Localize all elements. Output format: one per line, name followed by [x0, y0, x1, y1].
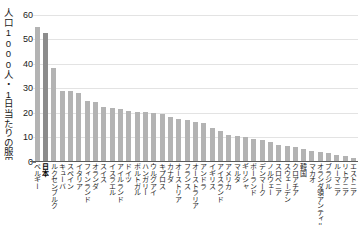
bar-slot: [266, 10, 274, 162]
x-label-slot: ドイツ: [125, 163, 133, 226]
x-tick-label: リトアニア: [342, 163, 349, 225]
x-label-slot: スイス: [100, 163, 108, 226]
bar-slot: [175, 10, 183, 162]
bar: [168, 117, 173, 162]
y-tick-label: 20: [13, 108, 33, 118]
bar: [285, 146, 290, 162]
x-tick-label: イタリア: [75, 163, 82, 225]
bar-slot: [191, 10, 199, 162]
x-label-slot: マカオ: [308, 163, 316, 226]
x-label-slot: イタリア: [75, 163, 83, 226]
x-label-slot: エストニア: [349, 163, 357, 226]
x-label-slot: スロベニア: [275, 163, 283, 226]
bar: [268, 142, 273, 162]
x-label-slot: イスラエル: [108, 163, 116, 226]
x-tick-label: ポルトガル: [133, 163, 140, 225]
x-label-slot: 日本: [41, 163, 49, 226]
bar: [193, 122, 198, 162]
bar-slot: [216, 10, 224, 162]
bar-slot: [166, 10, 174, 162]
x-tick-label: 韓国: [300, 163, 307, 225]
x-label-slot: オーストラリア: [191, 163, 199, 226]
x-label-slot: キプロス: [158, 163, 166, 226]
x-tick-label: アンドラ: [200, 163, 207, 225]
y-tick-label: 50: [13, 34, 33, 44]
bar: [135, 112, 140, 162]
x-label-slot: ルーマニア: [333, 163, 341, 226]
x-label-slot: オーストリア: [175, 163, 183, 226]
x-tick-label: イスラエル: [108, 163, 115, 225]
x-label-slot: スペイン: [66, 163, 74, 226]
bar: [160, 114, 165, 162]
x-label-slot: ブラジル: [324, 163, 332, 226]
bar-slot: [158, 10, 166, 162]
x-tick-label: ルクセンブルク: [50, 163, 57, 225]
x-tick-label: ポーランド: [250, 163, 257, 225]
bar: [85, 101, 90, 162]
y-axis-ticks: 0102030405060: [12, 10, 33, 162]
bar-slot: [50, 10, 58, 162]
x-tick-label: アイスランド: [217, 163, 224, 225]
bar: [235, 136, 240, 162]
bar-slot: [349, 10, 357, 162]
bar-slot: [208, 10, 216, 162]
bar-slot: [183, 10, 191, 162]
bar-slot: [241, 10, 249, 162]
bar-slot: [333, 10, 341, 162]
bar: [176, 119, 181, 162]
bar: [201, 123, 206, 162]
bar-slot: [341, 10, 349, 162]
bar: [51, 68, 56, 162]
bar: [243, 137, 248, 162]
x-tick-label: キプロス: [158, 163, 165, 225]
x-label-slot: オランダ領アンティル: [316, 163, 324, 226]
x-label-slot: フィンランド: [83, 163, 91, 226]
x-tick-label: オーストラリア: [192, 163, 199, 225]
x-label-slot: アイルランド: [116, 163, 124, 226]
x-tick-label: 日本: [42, 163, 49, 225]
x-label-slot: クロアチア: [291, 163, 299, 226]
x-label-slot: アンドラ: [200, 163, 208, 226]
chart-container: 人口1000人・1日当たりの服用量 0102030405060 ベルギー日本ルク…: [0, 0, 360, 226]
bar-slot: [33, 10, 41, 162]
y-tick-label: 0: [13, 157, 33, 167]
bar-slot: [316, 10, 324, 162]
x-tick-label: デンマーク: [258, 163, 265, 225]
bar: [93, 102, 98, 162]
x-tick-label: カナダ: [167, 163, 174, 225]
bar-slot: [75, 10, 83, 162]
bar: [68, 91, 73, 162]
bar-slot: [275, 10, 283, 162]
x-tick-label: ルーマニア: [333, 163, 340, 225]
bar-series: [33, 10, 358, 162]
bar: [251, 139, 256, 162]
bar-slot: [108, 10, 116, 162]
bar-slot: [83, 10, 91, 162]
bar: [226, 135, 231, 162]
x-tick-label: スウェーデン: [283, 163, 290, 225]
x-tick-label: クロアチア: [292, 163, 299, 225]
x-tick-label: スロベニア: [275, 163, 282, 225]
x-label-slot: ハンガリー: [141, 163, 149, 226]
y-tick-label: 10: [13, 132, 33, 142]
x-tick-label: エストニア: [350, 163, 357, 225]
x-label-slot: アメリカ: [225, 163, 233, 226]
x-axis-line: [30, 161, 358, 162]
bar-slot: [58, 10, 66, 162]
bar-slot: [291, 10, 299, 162]
bar: [301, 149, 306, 162]
plot-area: [33, 10, 358, 162]
x-label-slot: ノルウェー: [266, 163, 274, 226]
x-label-slot: ギリシャ: [241, 163, 249, 226]
bar: [218, 131, 223, 162]
x-axis-labels: ベルギー日本ルクセンブルクキューバスペインイタリアフィンランドオランダスイスイス…: [33, 163, 358, 226]
bar: [60, 91, 65, 162]
bar-slot: [300, 10, 308, 162]
x-tick-label: イギリス: [208, 163, 215, 225]
x-label-slot: ベルギー: [33, 163, 41, 226]
bar-slot: [66, 10, 74, 162]
x-tick-label: オランダ領アンティル: [317, 163, 324, 225]
x-tick-label: マルタ: [233, 163, 240, 225]
bar-slot: [91, 10, 99, 162]
bar: [210, 128, 215, 162]
